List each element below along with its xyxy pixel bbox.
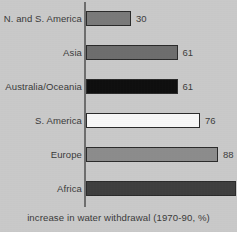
category-label: Asia [0,44,82,61]
bar [86,79,178,94]
bar-row: Asia61 [0,44,237,61]
bar-value-label: 76 [205,113,216,128]
bar-value-label: 30 [136,11,147,26]
bar [86,113,200,128]
bar-row: S. America76 [0,112,237,129]
category-label: N. and S. America [0,10,82,27]
bar [86,45,178,60]
bar-and-value: 61 [86,44,193,61]
chart-caption: increase in water withdrawal (1970-90, %… [0,212,237,223]
bar-chart: N. and S. America30Asia61Australia/Ocean… [0,0,237,232]
bar-rows: N. and S. America30Asia61Australia/Ocean… [0,0,237,207]
bar-and-value: 100 [86,180,237,197]
bar-row: Australia/Oceania61 [0,78,237,95]
bar-row: Africa100 [0,180,237,197]
bar-value-label: 88 [223,147,234,162]
bar [86,147,218,162]
bar-and-value: 88 [86,146,234,163]
bar-and-value: 61 [86,78,193,95]
bar-value-label: 61 [183,79,194,94]
category-label: S. America [0,112,82,129]
category-label: Australia/Oceania [0,78,82,95]
category-label: Africa [0,180,82,197]
bar [86,11,131,26]
bar [86,181,236,196]
bar-row: N. and S. America30 [0,10,237,27]
bar-row: Europe88 [0,146,237,163]
bar-and-value: 30 [86,10,147,27]
category-label: Europe [0,146,82,163]
bar-value-label: 61 [183,45,194,60]
bar-and-value: 76 [86,112,216,129]
